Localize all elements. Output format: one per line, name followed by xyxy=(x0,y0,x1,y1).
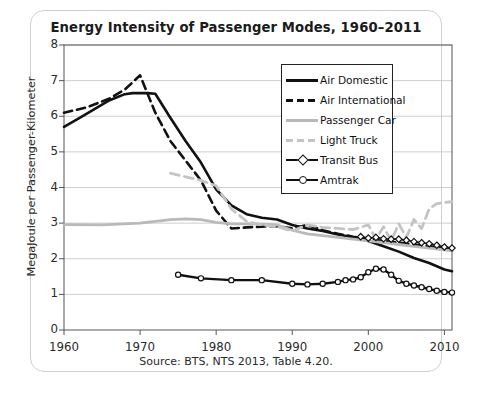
diamond-marker-icon xyxy=(297,154,308,165)
data-point-marker xyxy=(373,266,378,271)
data-point-marker xyxy=(176,272,181,277)
legend-label: Light Truck xyxy=(318,134,378,146)
legend-item-air-international[interactable]: Air International xyxy=(286,90,392,110)
legend-label: Air Domestic xyxy=(318,74,388,86)
data-point-marker xyxy=(389,272,394,277)
y-tick-label: 1 xyxy=(36,286,58,300)
data-point-marker xyxy=(335,279,340,284)
y-tick-label: 2 xyxy=(36,251,58,265)
legend-swatch-icon xyxy=(286,154,318,166)
y-tick-label: 8 xyxy=(36,37,58,51)
y-tick-label: 7 xyxy=(36,73,58,87)
y-axis-ticks: 012345678 xyxy=(36,0,58,397)
data-point-marker xyxy=(366,270,371,275)
data-point-marker xyxy=(442,289,447,294)
legend-item-amtrak[interactable]: Amtrak xyxy=(286,170,392,190)
legend-item-air-domestic[interactable]: Air Domestic xyxy=(286,70,392,90)
grid-lines xyxy=(64,45,452,294)
x-tick-label: 2010 xyxy=(419,340,469,354)
data-point-marker xyxy=(290,281,295,286)
x-axis-ticks: 196019701980199020002010 xyxy=(0,340,482,360)
data-point-marker xyxy=(411,283,416,288)
legend-item-passenger-car[interactable]: Passenger Car xyxy=(286,110,392,130)
y-tick-label: 5 xyxy=(36,144,58,158)
legend-item-light-truck[interactable]: Light Truck xyxy=(286,130,392,150)
data-series xyxy=(64,75,455,295)
data-point-marker xyxy=(229,278,234,283)
legend-swatch-icon xyxy=(286,94,318,106)
data-point-marker xyxy=(396,278,401,283)
legend-swatch-icon xyxy=(286,174,318,186)
data-point-marker xyxy=(434,288,439,293)
x-tick-label: 1970 xyxy=(115,340,165,354)
data-point-marker xyxy=(343,278,348,283)
data-point-marker xyxy=(419,285,424,290)
data-point-marker xyxy=(396,236,402,242)
legend-swatch-icon xyxy=(286,74,318,86)
series-line-amtrak xyxy=(178,269,452,293)
data-point-marker xyxy=(358,275,363,280)
y-tick-label: 0 xyxy=(36,322,58,336)
x-tick-label: 1960 xyxy=(39,340,89,354)
legend-label: Air International xyxy=(318,94,406,106)
data-point-marker xyxy=(198,276,203,281)
legend-swatch-icon xyxy=(286,134,318,146)
data-point-marker xyxy=(449,290,454,295)
data-point-marker xyxy=(404,281,409,286)
chart-legend: Air DomesticAir InternationalPassenger C… xyxy=(281,64,393,194)
y-tick-label: 3 xyxy=(36,215,58,229)
data-point-marker xyxy=(381,267,386,272)
legend-label: Passenger Car xyxy=(318,114,396,126)
legend-item-transit-bus[interactable]: Transit Bus xyxy=(286,150,392,170)
legend-label: Transit Bus xyxy=(318,154,378,166)
x-tick-label: 1980 xyxy=(191,340,241,354)
data-point-marker xyxy=(320,281,325,286)
data-point-marker xyxy=(350,277,355,282)
data-point-marker xyxy=(427,286,432,291)
data-point-marker xyxy=(305,282,310,287)
x-tick-label: 2000 xyxy=(343,340,393,354)
y-tick-label: 6 xyxy=(36,108,58,122)
x-tick-label: 1990 xyxy=(267,340,317,354)
data-point-marker xyxy=(259,278,264,283)
y-tick-label: 4 xyxy=(36,180,58,194)
circle-marker-icon xyxy=(299,176,307,184)
legend-swatch-icon xyxy=(286,114,318,126)
chart-plot xyxy=(0,0,482,397)
legend-label: Amtrak xyxy=(318,174,359,186)
